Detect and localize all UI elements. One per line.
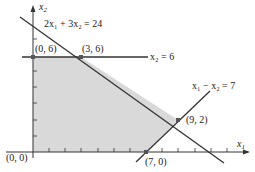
constraint-label-c2: x₂ = 6 bbox=[150, 51, 174, 62]
vertex-label-0-6: (0, 6) bbox=[35, 43, 57, 55]
x2-axis-label: x2 bbox=[38, 1, 47, 14]
x2-axis-arrow-icon bbox=[31, 5, 36, 12]
lp-diagram: x2 x1 2x₁ + 3x₂ = 24 x₂ = 6 x₁ − x₂ = 7 … bbox=[0, 0, 255, 172]
vertex-label-0-0: (0, 0) bbox=[6, 152, 28, 164]
feasible-region bbox=[33, 57, 178, 152]
vertex-label-7-0: (7, 0) bbox=[145, 156, 167, 168]
constraint-label-c3: x₁ − x₂ = 7 bbox=[192, 80, 235, 91]
x1-axis-label: x1 bbox=[236, 138, 245, 151]
constraint-label-c1: 2x₁ + 3x₂ = 24 bbox=[44, 18, 102, 29]
vertex-label-3-6: (3, 6) bbox=[82, 43, 104, 55]
vertex-label-9-2: (9, 2) bbox=[186, 114, 208, 126]
